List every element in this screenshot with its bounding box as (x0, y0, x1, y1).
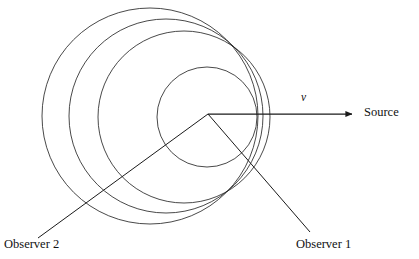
observer-1-line (208, 114, 310, 232)
wavefront-diagram-svg (0, 0, 419, 259)
doppler-effect-figure: v Source Observer 1 Observer 2 (0, 0, 419, 259)
source-label: Source (364, 106, 399, 119)
wavefront-group (42, 8, 270, 224)
observer-1-label: Observer 1 (296, 238, 351, 251)
velocity-label: v (301, 92, 306, 104)
observer-2-label: Observer 2 (4, 238, 59, 251)
wavefront-4-innermost (157, 67, 257, 167)
wavefront-1-outermost (42, 8, 258, 224)
wavefront-3 (98, 31, 270, 203)
